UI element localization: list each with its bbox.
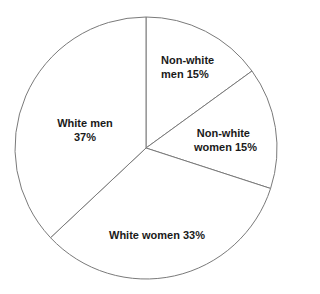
- label-nonwhite-women: Non-white women 15%: [194, 126, 254, 154]
- label-nonwhite-men: Non-white men 15%: [161, 53, 214, 81]
- label-white-women: White women 33%: [109, 228, 205, 242]
- label-white-men: White men 37%: [54, 116, 116, 144]
